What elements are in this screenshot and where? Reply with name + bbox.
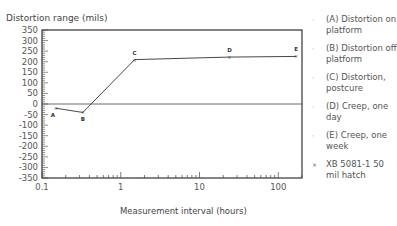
- x-tick-label: 10: [194, 182, 205, 192]
- data-marker: ×: [81, 109, 85, 115]
- y-tick-label: 0: [33, 99, 38, 109]
- y-tick-label: -250: [19, 152, 38, 162]
- y-tick-label: 50: [27, 88, 38, 98]
- point-label: D: [227, 47, 232, 53]
- y-tick-label: 250: [22, 46, 38, 56]
- data-marker: ×: [54, 105, 58, 111]
- x-tick-label: 100: [270, 182, 286, 192]
- legend-item: ·(A) Distortion on platform: [312, 14, 397, 36]
- y-tick-label: 300: [22, 36, 38, 46]
- y-tick-label: -200: [19, 141, 38, 151]
- legend-item: ·(D) Creep, one day: [312, 101, 397, 123]
- point-label: E: [294, 46, 298, 52]
- point-label: B: [81, 116, 85, 122]
- y-tick-label: 100: [22, 78, 38, 88]
- legend-label: (D) Creep, one day: [326, 101, 388, 122]
- dot-marker-icon: ·: [312, 14, 314, 25]
- x-tick-label: 0.1: [35, 182, 49, 192]
- legend-label: XB 5081-1 50 mil hatch: [326, 159, 384, 180]
- legend-label: (A) Distortion on platform: [326, 14, 396, 35]
- x-tick-label: 1: [118, 182, 123, 192]
- data-marker: ×: [133, 57, 137, 63]
- cross-marker-icon: ×: [312, 159, 317, 170]
- y-tick-label: 350: [22, 25, 38, 35]
- chart-legend: ·(A) Distortion on platform·(B) Distorti…: [312, 14, 397, 188]
- legend-item: ×XB 5081-1 50 mil hatch: [312, 159, 397, 181]
- y-tick-label: -150: [19, 131, 38, 141]
- dot-marker-icon: ·: [312, 101, 314, 112]
- y-tick-label: -50: [24, 110, 38, 120]
- y-tick-label: -300: [19, 162, 38, 172]
- legend-label: (C) Distortion, postcure: [326, 72, 386, 93]
- dot-marker-icon: ·: [312, 72, 314, 83]
- dot-marker-icon: ·: [312, 130, 314, 141]
- point-label: A: [51, 112, 56, 118]
- legend-label: (E) Creep, one week: [326, 130, 387, 151]
- legend-label: (B) Distortion off platform: [326, 43, 397, 64]
- data-marker: ×: [294, 53, 298, 59]
- y-tick-label: -100: [19, 120, 38, 130]
- y-tick-label: 150: [22, 67, 38, 77]
- legend-item: ·(E) Creep, one week: [312, 130, 397, 152]
- data-marker: ×: [227, 54, 231, 60]
- y-tick-label: 200: [22, 57, 38, 67]
- legend-item: ·(B) Distortion off platform: [312, 43, 397, 65]
- point-label: C: [133, 50, 137, 56]
- dot-marker-icon: ·: [312, 43, 314, 54]
- legend-item: ·(C) Distortion, postcure: [312, 72, 397, 94]
